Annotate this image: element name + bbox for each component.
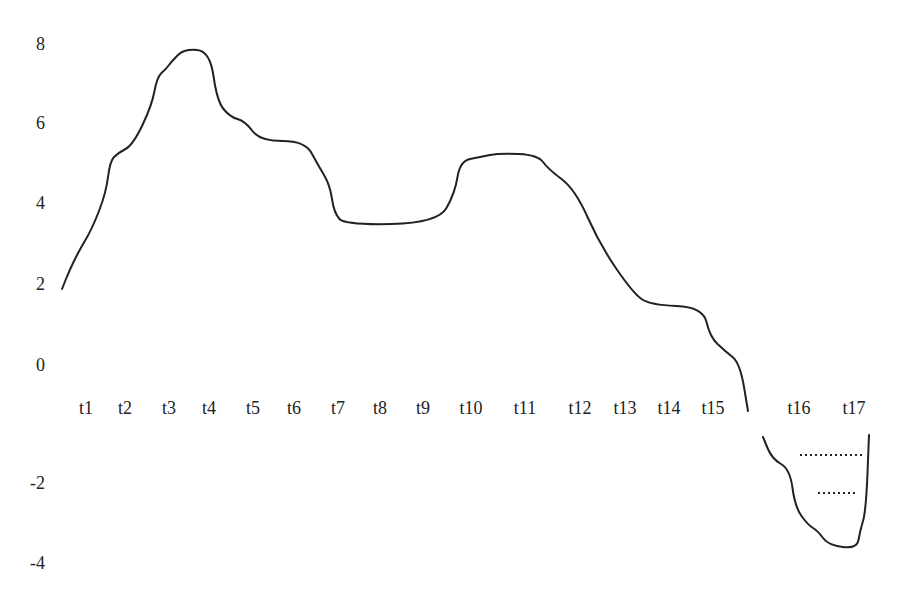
series-line-curve-lower — [763, 435, 869, 547]
line-chart: 8 6 4 2 0 -2 -4 t1t2t3t4t5t6t7t8t9t10t11… — [0, 0, 898, 592]
series-line-curve — [62, 50, 748, 411]
plot-area — [0, 0, 898, 592]
